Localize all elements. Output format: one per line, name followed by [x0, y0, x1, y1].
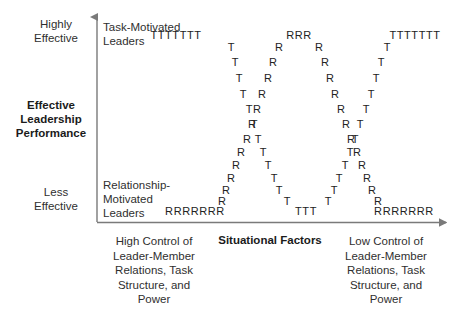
- data-point-r: R: [274, 42, 284, 53]
- data-point-t: T: [382, 42, 392, 53]
- data-point-r: R: [231, 160, 241, 171]
- data-point-t: T: [329, 185, 339, 196]
- data-point-r: R: [252, 104, 262, 115]
- data-point-r: R: [341, 119, 351, 130]
- data-point-t: T: [355, 119, 365, 130]
- data-point-t: T: [234, 73, 244, 84]
- data-point-t: T: [269, 173, 279, 184]
- data-point-t: T: [282, 196, 292, 207]
- data-point-t: TTTTTTT: [150, 30, 201, 41]
- data-point-t: T: [340, 160, 350, 171]
- data-point-r: R: [346, 134, 356, 145]
- data-point-t: T: [263, 160, 273, 171]
- data-point-r: RRR: [286, 30, 312, 41]
- data-point-r: R: [320, 57, 330, 68]
- data-point-t: T: [334, 173, 344, 184]
- data-point-r: R: [268, 57, 278, 68]
- data-point-r: R: [325, 73, 335, 84]
- data-point-t: T: [274, 185, 284, 196]
- data-point-t: T: [226, 42, 236, 53]
- data-point-r: RRRRRRR: [374, 206, 434, 217]
- data-point-r: R: [362, 173, 372, 184]
- data-point-t: T: [323, 196, 333, 207]
- data-point-t: TTT: [295, 206, 317, 217]
- fiedler-contingency-model-figure: Highly Effective Effective Leadership Pe…: [0, 0, 455, 322]
- data-point-r: R: [226, 173, 236, 184]
- data-point-t: T: [258, 147, 268, 158]
- data-point-t: TTTTTTT: [389, 30, 440, 41]
- data-point-t: T: [371, 73, 381, 84]
- data-point-t: T: [238, 89, 248, 100]
- data-point-r: R: [247, 119, 257, 130]
- data-point-r: R: [314, 42, 324, 53]
- data-point-t: T: [230, 57, 240, 68]
- data-point-r: R: [221, 185, 231, 196]
- data-point-t: T: [366, 89, 376, 100]
- x-axis-right-label: Low Control of Leader-Member Relations, …: [336, 234, 436, 307]
- data-point-r: R: [217, 196, 227, 207]
- x-axis-title: Situational Factors: [206, 234, 334, 246]
- data-point-t: T: [361, 104, 371, 115]
- data-point-r: R: [236, 147, 246, 158]
- data-point-t: T: [253, 134, 263, 145]
- data-point-r: R: [263, 73, 273, 84]
- data-point-r: R: [242, 134, 252, 145]
- x-axis-left-label: High Control of Leader-Member Relations,…: [104, 234, 204, 307]
- data-point-r: R: [336, 104, 346, 115]
- data-point-t: T: [376, 57, 386, 68]
- data-point-r: R: [357, 160, 367, 171]
- data-point-r: R: [352, 147, 362, 158]
- data-point-r: RRRRRRR: [165, 206, 225, 217]
- data-point-r: R: [330, 89, 340, 100]
- data-point-r: R: [257, 89, 267, 100]
